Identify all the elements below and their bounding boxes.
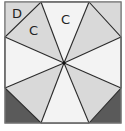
octagon-dissection-diagram: D C C [0, 0, 125, 131]
label-c-top: C [61, 12, 70, 27]
label-c-left: C [29, 23, 38, 38]
label-d: D [12, 6, 22, 21]
center-point [63, 62, 66, 65]
